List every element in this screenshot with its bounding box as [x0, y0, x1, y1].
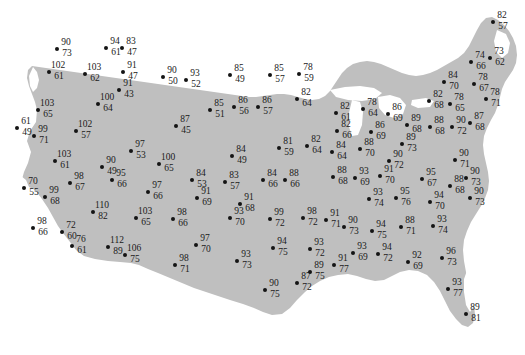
data-point — [110, 178, 114, 182]
point-label-upper: 91 — [123, 79, 133, 89]
point-label-upper: 82 — [497, 11, 507, 21]
point-label-upper: 89 — [406, 133, 416, 143]
point-label-lower: 73 — [447, 258, 457, 268]
point-label-lower: 69 — [393, 114, 403, 124]
map-figure: 9073946183471026110362914790509143100641… — [0, 0, 525, 355]
point-label-upper: 93 — [241, 250, 251, 260]
point-label-lower: 71 — [331, 220, 341, 230]
data-point — [448, 102, 452, 106]
point-label-upper: 82 — [311, 135, 321, 145]
point-label-lower: 66 — [476, 62, 486, 72]
point-label-lower: 69 — [376, 132, 386, 142]
point-label-lower: 68 — [434, 101, 444, 111]
data-point — [331, 175, 335, 179]
data-point — [448, 184, 452, 188]
point-label-upper: 94 — [434, 191, 444, 201]
point-label-lower: 66 — [268, 180, 278, 190]
point-label-upper: 84 — [336, 141, 346, 151]
point-label-lower: 64 — [337, 152, 347, 162]
point-label-upper: 84 — [448, 71, 458, 81]
point-label-upper: 93 — [314, 238, 324, 248]
point-label-lower: 75 — [270, 290, 280, 300]
point-label-upper: 82 — [340, 102, 350, 112]
data-point — [228, 216, 232, 220]
point-label-upper: 103 — [87, 63, 101, 73]
point-label-lower: 69 — [413, 262, 423, 272]
point-label-lower: 81 — [471, 314, 481, 324]
point-label-lower: 57 — [81, 131, 91, 141]
point-label-lower: 69 — [358, 253, 368, 263]
data-point — [464, 176, 468, 180]
point-label-upper: 102 — [78, 120, 92, 130]
point-label-upper: 91 — [330, 209, 340, 219]
point-label-lower: 57 — [263, 107, 273, 117]
point-label-upper: 61 — [21, 117, 31, 127]
point-label-upper: 93 — [190, 69, 200, 79]
point-label-upper: 86 — [375, 121, 385, 131]
data-point — [68, 181, 72, 185]
data-point — [334, 111, 338, 115]
point-label-lower: 71 — [491, 99, 501, 109]
data-point — [468, 196, 472, 200]
data-point — [369, 130, 373, 134]
data-point — [361, 107, 365, 111]
data-point — [394, 196, 398, 200]
data-point — [324, 218, 328, 222]
data-point — [295, 281, 299, 285]
point-label-lower: 77 — [339, 265, 349, 275]
point-label-lower: 49 — [237, 156, 247, 166]
point-label-lower: 68 — [475, 123, 485, 133]
point-label-upper: 83 — [229, 171, 239, 181]
point-label-upper: 82 — [341, 120, 351, 130]
data-point — [60, 230, 64, 234]
point-label-upper: 90 — [470, 167, 480, 177]
data-point — [31, 226, 35, 230]
point-label-upper: 84 — [267, 169, 277, 179]
point-label-lower: 70 — [385, 176, 395, 186]
point-label-upper: 98 — [37, 217, 47, 227]
point-label-upper: 78 — [367, 98, 377, 108]
point-label-lower: 72 — [308, 218, 318, 228]
data-point — [271, 246, 275, 250]
data-point — [358, 147, 362, 151]
point-label-lower: 71 — [180, 265, 190, 275]
point-label-upper: 93 — [452, 278, 462, 288]
data-point — [330, 150, 334, 154]
point-label-upper: 99 — [38, 125, 48, 135]
data-point — [117, 88, 121, 92]
point-label-upper: 98 — [179, 254, 189, 264]
point-label-lower: 66 — [117, 180, 127, 190]
data-point — [268, 217, 272, 221]
point-label-upper: 90 — [456, 116, 466, 126]
data-point — [405, 123, 409, 127]
data-point — [43, 195, 47, 199]
point-label-lower: 61 — [54, 72, 64, 82]
point-label-lower: 89 — [113, 247, 123, 257]
data-point — [232, 105, 236, 109]
data-point — [32, 134, 36, 138]
data-point — [228, 73, 232, 77]
point-label-upper: 87 — [474, 112, 484, 122]
point-label-upper: 86 — [392, 103, 402, 113]
point-label-lower: 66 — [153, 192, 163, 202]
point-label-upper: 86 — [238, 96, 248, 106]
point-label-lower: 64 — [103, 104, 113, 114]
point-label-upper: 85 — [274, 64, 284, 74]
data-point — [129, 149, 133, 153]
point-label-lower: 50 — [168, 77, 178, 87]
point-label-upper: 95 — [400, 187, 410, 197]
point-label-lower: 53 — [136, 151, 146, 161]
point-label-upper: 78 — [478, 73, 488, 83]
data-point — [308, 270, 312, 274]
data-point — [406, 260, 410, 264]
point-label-lower: 70 — [235, 218, 245, 228]
point-label-lower: 73 — [407, 144, 417, 154]
point-label-upper: 97 — [135, 140, 145, 150]
point-label-lower: 73 — [349, 227, 359, 237]
data-point — [184, 78, 188, 82]
data-point — [378, 174, 382, 178]
data-point — [22, 186, 26, 190]
data-point — [428, 200, 432, 204]
point-label-lower: 52 — [191, 80, 201, 90]
point-label-upper: 90 — [167, 66, 177, 76]
